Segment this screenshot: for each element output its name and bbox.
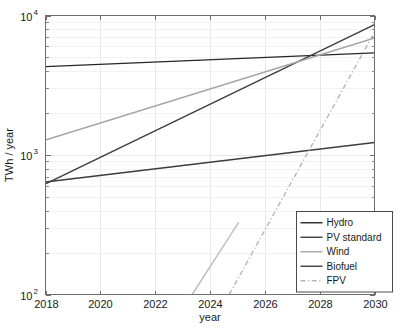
- chart-legend[interactable]: HydroPV standardWindBiofuelFPV: [297, 212, 393, 293]
- y-axis-label: TWh / year: [3, 128, 15, 182]
- ytick-label-exponent: 4: [34, 8, 39, 17]
- xtick-label: 2028: [308, 298, 332, 310]
- legend-label-hydro[interactable]: Hydro: [327, 217, 354, 228]
- legend-label-biofuel[interactable]: Biofuel: [327, 261, 358, 272]
- line-chart: 2018202020222024202620282030102103104yea…: [0, 0, 400, 328]
- xtick-label: 2018: [34, 298, 58, 310]
- chart-figure: 2018202020222024202620282030102103104yea…: [0, 0, 400, 328]
- series-line-pv-standard-short: [192, 222, 239, 294]
- legend-label-wind[interactable]: Wind: [327, 246, 350, 257]
- xtick-label: 2022: [143, 298, 167, 310]
- xtick-label: 2024: [198, 298, 222, 310]
- legend-label-pv-standard[interactable]: PV standard: [327, 232, 382, 243]
- xtick-label: 2020: [88, 298, 112, 310]
- ytick-label: 10: [20, 11, 32, 23]
- xtick-label: 2026: [253, 298, 277, 310]
- ytick-label-exponent: 3: [34, 147, 39, 156]
- ytick-label: 10: [20, 150, 32, 162]
- x-axis-label: year: [199, 311, 221, 323]
- ytick-label-exponent: 2: [34, 287, 39, 296]
- xtick-label: 2030: [363, 298, 387, 310]
- legend-label-fpv[interactable]: FPV: [327, 275, 347, 286]
- ytick-label: 10: [20, 290, 32, 302]
